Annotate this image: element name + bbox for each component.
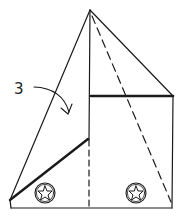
fold-arrow bbox=[34, 87, 69, 112]
left-slant-edge bbox=[10, 10, 90, 200]
right-vertical-edge bbox=[172, 96, 173, 208]
right-slant-edge bbox=[90, 10, 173, 96]
star-circle-left bbox=[35, 183, 55, 203]
diagonal-fold bbox=[92, 16, 171, 202]
star-circle-right bbox=[126, 183, 146, 203]
left-bottom-edge bbox=[10, 200, 11, 208]
step-number-label: 3 bbox=[14, 82, 24, 97]
diagram-drawing bbox=[0, 0, 180, 219]
center-vertical bbox=[89, 10, 90, 140]
fold-diagram: 3 bbox=[0, 0, 180, 219]
